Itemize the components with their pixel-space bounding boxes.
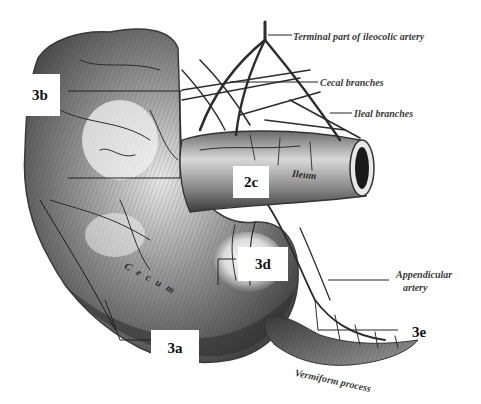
label-3e: 3e xyxy=(412,324,426,341)
label-3d: 3d xyxy=(238,247,288,281)
label-3b: 3b xyxy=(20,74,60,116)
caption-appendicular-artery-line1: Appendicular xyxy=(396,270,452,280)
ileum-shape xyxy=(180,131,374,212)
label-3a: 3a xyxy=(151,330,199,367)
caption-appendicular-artery-line2: artery xyxy=(403,283,427,293)
caption-terminal-ileocolic-artery: Terminal part of ileocolic artery xyxy=(293,32,424,42)
ileum-lumen xyxy=(355,147,369,189)
anatomical-figure: Terminal part of ileocolic artery Cecal … xyxy=(0,0,481,404)
caption-ileal-branches: Ileal branches xyxy=(354,109,413,119)
illustration-svg xyxy=(0,0,481,404)
label-2c: 2c xyxy=(233,166,269,198)
caption-cecal-branches: Cecal branches xyxy=(320,78,384,88)
